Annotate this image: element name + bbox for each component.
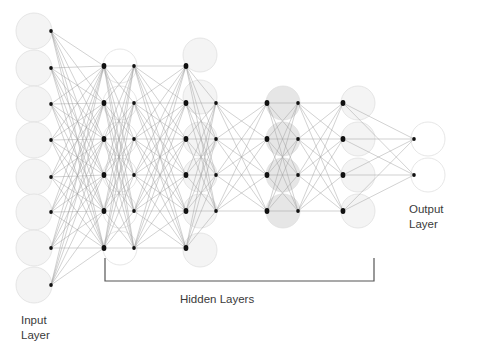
output-label-line1: Output [409, 202, 444, 217]
hidden-2-dot [184, 136, 189, 142]
input-neuron [16, 13, 52, 49]
hidden-3-dot [265, 208, 270, 214]
connection [51, 175, 104, 285]
hidden-3-dot [214, 137, 218, 141]
hidden-4-neuron [341, 86, 375, 120]
hidden-2-neuron [183, 80, 217, 114]
input-dot [49, 29, 53, 33]
input-dot [49, 66, 53, 70]
output-dot [412, 137, 416, 141]
hidden-1-dot [102, 136, 107, 142]
output-label-line2: Layer [409, 217, 444, 232]
input-layer-label: Input Layer [21, 313, 50, 343]
input-neuron [16, 230, 52, 266]
connection [51, 66, 104, 68]
hidden-4-dot [296, 209, 300, 213]
connection [51, 31, 104, 66]
hidden-3-dot [214, 173, 218, 177]
hidden-4-dot [341, 172, 346, 178]
output-neuron [411, 122, 445, 156]
hidden-3-dot [265, 172, 270, 178]
output-dot [412, 173, 416, 177]
hidden-4-dot [296, 137, 300, 141]
hidden-4-dot [296, 101, 300, 105]
input-neuron [16, 194, 52, 230]
hidden-2-dot [132, 101, 136, 105]
output-layer-label: Output Layer [409, 202, 444, 232]
hidden-2-dot [132, 173, 136, 177]
hidden-1-dot [102, 245, 107, 251]
hidden-2-dot [184, 208, 189, 214]
hidden-2-dot [132, 64, 136, 68]
input-dot [49, 138, 53, 142]
hidden-2-dot [132, 137, 136, 141]
input-neuron [16, 86, 52, 122]
hidden-layers-bracket [105, 258, 374, 281]
hidden-2-dot [184, 63, 189, 69]
hidden-1-dot [102, 100, 107, 106]
hidden-1-dot [102, 172, 107, 178]
input-dot [49, 102, 53, 106]
input-dot [49, 246, 53, 250]
hidden-2-dot [132, 209, 136, 213]
connection [51, 103, 104, 285]
input-label-line2: Layer [21, 328, 50, 343]
hidden-1-dot [102, 63, 107, 69]
hidden-2-dot [184, 172, 189, 178]
input-neuron [16, 159, 52, 195]
hidden-3-dot [265, 100, 270, 106]
hidden-3-dot [265, 136, 270, 142]
hidden-2-dot [132, 246, 136, 250]
input-neuron [16, 122, 52, 158]
input-dot [49, 210, 53, 214]
output-neuron [411, 158, 445, 192]
input-neuron [16, 267, 52, 303]
input-dot [49, 175, 53, 179]
hidden-4-neuron [341, 194, 375, 228]
hidden-4-dot [341, 136, 346, 142]
hidden-3-dot [214, 209, 218, 213]
input-label-line1: Input [21, 313, 50, 328]
hidden-layers-label: Hidden Layers [180, 292, 254, 307]
hidden-1-dot [102, 208, 107, 214]
connection [51, 248, 104, 285]
hidden-4-dot [341, 100, 346, 106]
input-dot [49, 283, 53, 287]
hidden-4-dot [341, 208, 346, 214]
hidden-2-dot [184, 100, 189, 106]
input-neuron [16, 50, 52, 86]
hidden-3-dot [214, 101, 218, 105]
hidden-4-dot [296, 173, 300, 177]
neural-network-diagram [0, 0, 478, 362]
hidden-2-dot [184, 245, 189, 251]
